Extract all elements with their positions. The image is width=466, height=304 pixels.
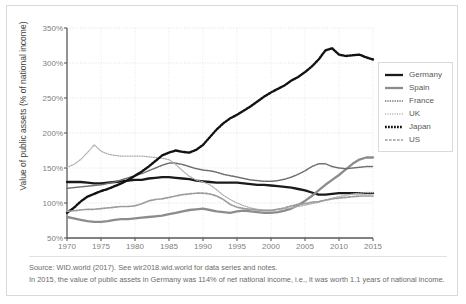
legend-swatch-icon	[384, 135, 404, 145]
legend-label: Japan	[409, 122, 431, 131]
legend-label: France	[409, 96, 434, 105]
legend-label: Spain	[409, 83, 429, 92]
chart-legend: GermanySpainFranceUKJapanUS	[378, 62, 453, 152]
series-line-us	[67, 193, 373, 211]
chart-panel: Value of public assets (% of national in…	[6, 5, 458, 296]
legend-swatch-icon	[384, 70, 404, 80]
legend-item-us[interactable]: US	[384, 133, 448, 146]
legend-label: UK	[409, 109, 420, 118]
series-line-japan	[67, 48, 373, 213]
legend-swatch-icon	[384, 83, 404, 93]
legend-item-germany[interactable]: Germany	[384, 68, 448, 81]
footer-note: In 2015, the value of public assets in G…	[29, 274, 459, 286]
legend-swatch-icon	[384, 96, 404, 106]
series-line-spain	[67, 158, 373, 222]
legend-swatch-icon	[384, 109, 404, 119]
footer-source: Source: WID.world (2017). See wir2018.wi…	[29, 262, 459, 274]
plot-area: Value of public assets (% of national in…	[7, 6, 459, 256]
legend-item-uk[interactable]: UK	[384, 107, 448, 120]
legend-item-spain[interactable]: Spain	[384, 81, 448, 94]
legend-label: US	[409, 135, 420, 144]
footer-divider	[29, 256, 447, 257]
legend-label: Germany	[409, 70, 442, 79]
legend-item-japan[interactable]: Japan	[384, 120, 448, 133]
legend-item-france[interactable]: France	[384, 94, 448, 107]
chart-footer: Source: WID.world (2017). See wir2018.wi…	[7, 258, 459, 285]
legend-swatch-icon	[384, 122, 404, 132]
